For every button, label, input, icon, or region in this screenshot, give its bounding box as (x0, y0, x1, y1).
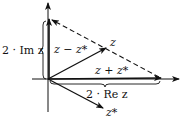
label-two-re: 2 · Re z (86, 88, 128, 101)
label-sum: z + z* (94, 64, 129, 77)
label-z: z (109, 36, 116, 49)
label-diff: z − z* (53, 43, 88, 56)
brace-re (50, 81, 160, 87)
label-two-im: 2 · Im z (2, 44, 44, 57)
vector-sum (48, 78, 161, 79)
complex-plane-diagram: z z* z + z* z − z* 2 · Im z 2 · Re z (0, 0, 182, 121)
label-z-conj: z* (105, 106, 118, 119)
